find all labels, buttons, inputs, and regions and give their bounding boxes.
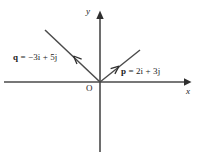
x-axis-label: x <box>186 87 190 96</box>
vector-diagram-figure: y x O q = −3i + 5j p = 2i + 3j <box>0 0 198 160</box>
origin-label: O <box>86 84 93 93</box>
vector-q-label: q = −3i + 5j <box>13 53 57 62</box>
diagram-canvas <box>0 0 198 160</box>
vector-q-expression: = −3i + 5j <box>18 52 57 62</box>
y-axis-arrowhead <box>96 11 103 20</box>
vector-p-label: p = 2i + 3j <box>121 67 160 76</box>
y-axis-label: y <box>86 7 90 16</box>
vector-p-expression: = 2i + 3j <box>126 66 160 76</box>
x-axis-arrowhead <box>184 78 192 86</box>
